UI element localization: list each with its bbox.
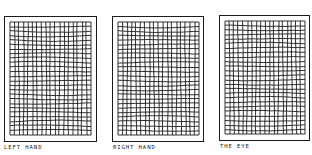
distorted-grid-the-eye — [224, 20, 306, 135]
label-left-hand: LEFT HAND — [4, 144, 42, 150]
distorted-grid-right-hand — [117, 21, 200, 136]
distorted-grid-left-hand — [9, 21, 92, 136]
label-the-eye: THE EYE — [220, 143, 250, 149]
label-right-hand: RIGHT HAND — [113, 144, 156, 150]
